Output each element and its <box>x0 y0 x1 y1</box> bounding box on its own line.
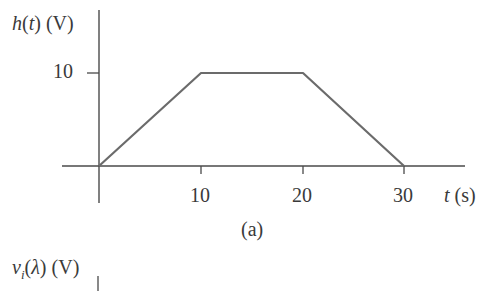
y-axis-label: h(t) (V) <box>12 12 74 35</box>
x-axis-label-unit: (s) <box>450 184 476 206</box>
second-label-unit: (V) <box>47 256 80 278</box>
y-tick-label-10: 10 <box>53 60 73 83</box>
x-axis-label: t (s) <box>444 184 476 207</box>
y-axis-label-func: h <box>12 12 22 34</box>
x-tick-label-10: 10 <box>190 184 210 207</box>
y-axis-label-arg: (t) <box>22 12 41 34</box>
x-tick-label-30: 30 <box>393 184 413 207</box>
second-label-arg: (λ) <box>25 256 47 278</box>
second-plot-y-axis-label: vi(λ) (V) <box>12 256 79 283</box>
figure-caption: (a) <box>241 218 263 241</box>
second-label-var: v <box>12 256 21 278</box>
h-t-trapezoid-line <box>99 73 404 166</box>
y-axis-label-unit: (V) <box>41 12 74 34</box>
x-tick-label-20: 20 <box>292 184 312 207</box>
plot-canvas <box>0 0 486 291</box>
